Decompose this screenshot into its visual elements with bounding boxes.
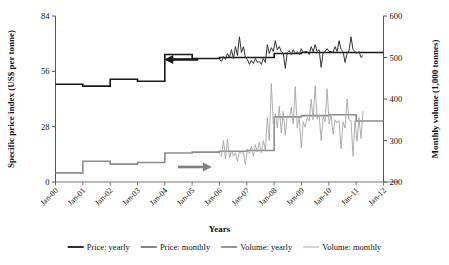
y-tick-label-left: 84 bbox=[41, 11, 50, 21]
legend-label: Price: monthly bbox=[160, 242, 211, 252]
series-price-yearly bbox=[56, 53, 384, 87]
y-axis-title-left: Specific price index (US$ per tonne) bbox=[6, 30, 16, 168]
x-tick-label: Jan-08 bbox=[257, 186, 278, 207]
y-tick-label-right: 400 bbox=[390, 94, 403, 104]
legend-label: Price: yearly bbox=[87, 242, 131, 252]
x-tick-label: Jan-02 bbox=[93, 186, 114, 207]
y-tick-label-right: 300 bbox=[390, 136, 403, 146]
x-tick-label: Jan-09 bbox=[284, 186, 305, 207]
x-axis-title: Years bbox=[209, 224, 231, 234]
legend-label: Volume: yearly bbox=[240, 242, 293, 252]
arrow-head bbox=[203, 163, 212, 172]
y-tick-label-left: 56 bbox=[41, 66, 50, 76]
x-tick-label: Jan-04 bbox=[148, 186, 169, 207]
y-tick-label-left: 28 bbox=[41, 122, 50, 132]
x-tick-label: Jan-05 bbox=[175, 186, 196, 207]
x-tick-label: Jan-00 bbox=[38, 186, 59, 207]
y-tick-label-right: 500 bbox=[390, 53, 403, 63]
chart-figure: 0285684200300400500600Jan-00Jan-01Jan-02… bbox=[0, 0, 449, 265]
chart-canvas: 0285684200300400500600Jan-00Jan-01Jan-02… bbox=[0, 0, 449, 265]
series-volume-monthly bbox=[220, 84, 364, 165]
x-tick-label: Jan-01 bbox=[66, 186, 87, 207]
x-tick-label: Jan-12 bbox=[366, 186, 387, 207]
x-tick-label: Jan-03 bbox=[120, 186, 141, 207]
y-axis-title-right: Monthly volume (1,000 tonnes) bbox=[430, 39, 440, 158]
right-axis-arrow-icon bbox=[178, 163, 212, 172]
x-tick-label: Jan-06 bbox=[202, 186, 223, 207]
y-tick-label-right: 600 bbox=[390, 11, 403, 21]
legend-item[interactable]: Volume: monthly bbox=[303, 242, 382, 252]
y-tick-label-right: 200 bbox=[390, 177, 403, 187]
x-tick-label: Jan-11 bbox=[339, 186, 360, 207]
legend-item[interactable]: Price: monthly bbox=[141, 242, 211, 252]
x-tick-label: Jan-07 bbox=[230, 186, 251, 207]
legend-label: Volume: monthly bbox=[322, 242, 382, 252]
y-tick-label-left: 0 bbox=[45, 177, 49, 187]
legend-item[interactable]: Volume: yearly bbox=[221, 242, 293, 252]
legend-item[interactable]: Price: yearly bbox=[68, 242, 131, 252]
left-axis-arrow-icon bbox=[164, 55, 198, 64]
x-tick-label: Jan-10 bbox=[312, 186, 333, 207]
